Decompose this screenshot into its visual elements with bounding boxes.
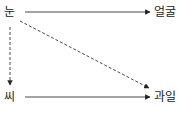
analogy-diagram: 눈 얼굴 씨 과일 — [0, 0, 178, 118]
edges-layer — [0, 0, 178, 118]
node-face: 얼굴 — [154, 5, 176, 19]
node-seed: 씨 — [4, 90, 15, 104]
node-eye: 눈 — [4, 5, 15, 19]
edge-eye-fruit — [20, 21, 149, 88]
node-fruit: 과일 — [154, 90, 176, 104]
